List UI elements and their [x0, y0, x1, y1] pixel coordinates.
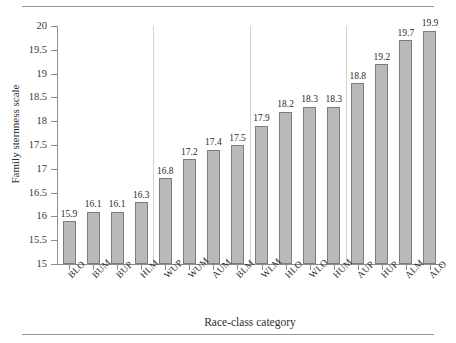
- bar[interactable]: [279, 112, 292, 264]
- y-tick-label-text: 17: [7, 164, 47, 175]
- bar-slot: 17.5: [225, 26, 249, 264]
- bar-slot: 16.3: [129, 26, 153, 264]
- bar-slot: 19.2: [370, 26, 394, 264]
- bar[interactable]: [303, 107, 316, 264]
- bar[interactable]: [207, 150, 220, 264]
- x-axis-title: Race-class category: [57, 316, 443, 328]
- y-tick-label: 16.5: [3, 188, 47, 198]
- bar-slot: 17.9: [250, 26, 274, 264]
- bar-slot: 18.3: [298, 26, 322, 264]
- y-tick-label: 19.5: [3, 45, 47, 55]
- bar[interactable]: [111, 212, 124, 264]
- bar-slot: 18.2: [274, 26, 298, 264]
- bar-value-label: 19.9: [413, 19, 446, 29]
- bar-slot: 19.9: [418, 26, 442, 264]
- bar-slot: 17.4: [201, 26, 225, 264]
- y-tick-label: 17: [3, 164, 47, 174]
- y-tick-label-text: 15.5: [7, 235, 47, 246]
- bar[interactable]: [159, 178, 172, 264]
- bar[interactable]: [327, 107, 340, 264]
- y-tick-label-text: 15: [7, 259, 47, 270]
- y-tick-label-text: 19.5: [7, 45, 47, 56]
- bar[interactable]: [399, 40, 412, 264]
- y-tick-label: 16: [3, 211, 47, 221]
- bar-slot: 16.1: [105, 26, 129, 264]
- plot-area: 15.916.116.116.316.817.217.417.517.918.2…: [57, 26, 442, 264]
- bar[interactable]: [183, 159, 196, 264]
- bar[interactable]: [351, 83, 364, 264]
- y-tick-label-text: 17.5: [7, 140, 47, 151]
- y-tick-label-text: 16: [7, 211, 47, 222]
- bar[interactable]: [87, 212, 100, 264]
- y-tick-label: 18: [3, 116, 47, 126]
- figure-bottom-rule: [22, 334, 434, 335]
- y-tick-label: 19: [3, 69, 47, 79]
- y-tick-label: 15.5: [3, 235, 47, 245]
- bar[interactable]: [135, 202, 148, 264]
- bar-slot: 16.1: [81, 26, 105, 264]
- bar-slot: 18.3: [322, 26, 346, 264]
- y-tick-label-text: 19: [7, 69, 47, 80]
- y-tick-label: 18.5: [3, 92, 47, 102]
- y-tick-label: 20: [3, 21, 47, 31]
- bar[interactable]: [231, 145, 244, 264]
- y-tick-label: 15: [3, 259, 47, 269]
- bar[interactable]: [423, 31, 436, 264]
- y-tick-mark: [51, 264, 57, 265]
- y-tick-label-text: 18: [7, 116, 47, 127]
- bar-slot: 15.9: [57, 26, 81, 264]
- y-tick-label-text: 16.5: [7, 188, 47, 199]
- y-tick-label: 17.5: [3, 140, 47, 150]
- bar[interactable]: [255, 126, 268, 264]
- figure-top-rule: [22, 6, 434, 7]
- bar-slot: 16.8: [153, 26, 177, 264]
- bar[interactable]: [375, 64, 388, 264]
- y-tick-label-text: 20: [7, 21, 47, 32]
- y-tick-label-text: 18.5: [7, 92, 47, 103]
- chart-figure: Family sternness scale 2019.51918.51817.…: [0, 0, 456, 343]
- bar-slot: 19.7: [394, 26, 418, 264]
- bar[interactable]: [63, 221, 76, 264]
